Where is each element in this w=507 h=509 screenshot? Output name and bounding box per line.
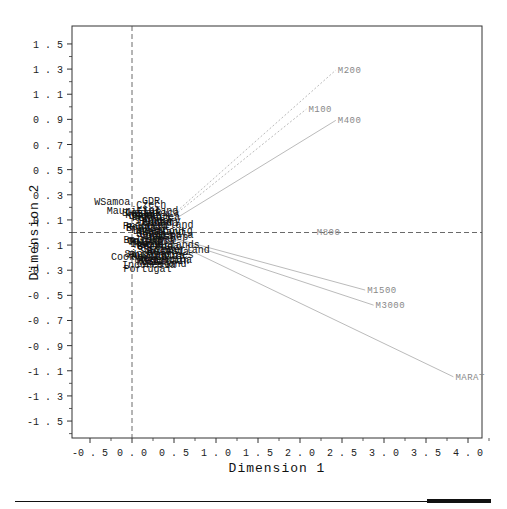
x-tick-label: 0 . 0 <box>117 448 147 459</box>
x-tick-label: 3 . 5 <box>411 448 441 459</box>
country-label: Dom.Rep <box>146 232 188 243</box>
y-tick-label: -0 . 7 <box>27 316 63 327</box>
x-tick-label: 4 . 0 <box>453 448 483 459</box>
country-cluster: SwedenTaiwanKenyaGreeceCanadaAustriaBraz… <box>94 196 210 275</box>
bottom-bar <box>427 499 491 503</box>
y-tick-label: 0 . 5 <box>33 166 63 177</box>
y-tick-label: -1 . 5 <box>27 417 63 428</box>
y-tick-label: 0 . 7 <box>33 141 63 152</box>
y-tick-label: -1 . 3 <box>27 392 63 403</box>
vector-label-m100: M100 <box>308 105 332 115</box>
y-tick-label: 1 . 5 <box>33 40 63 51</box>
x-axis-ticks: -0 . 50 . 00 . 51 . 01 . 52 . 02 . 53 . … <box>72 438 489 459</box>
x-tick-label: 2 . 5 <box>327 448 357 459</box>
y-tick-label: -0 . 5 <box>27 291 63 302</box>
y-tick-label: 1 . 3 <box>33 65 63 76</box>
vector-label-m3000: M3000 <box>376 301 406 311</box>
country-label: PNG <box>130 237 148 248</box>
x-tick-label: 0 . 5 <box>159 448 189 459</box>
vector-label-m1500: M1500 <box>367 286 397 296</box>
vector-line-m200 <box>153 70 336 232</box>
x-tick-label: 1 . 0 <box>201 448 231 459</box>
x-tick-label: 1 . 5 <box>243 448 273 459</box>
vector-label-m400: M400 <box>338 116 362 126</box>
y-tick-label: -0 . 9 <box>27 342 63 353</box>
country-label: Finland <box>136 206 178 217</box>
x-tick-label: 3 . 0 <box>369 448 399 459</box>
y-tick-label: 0 . 9 <box>33 115 63 126</box>
vector-label-marat: MARAT <box>455 373 485 383</box>
y-tick-label: 1 . 1 <box>33 90 63 101</box>
x-axis-title: Dimension 1 <box>229 461 326 476</box>
y-tick-label: -1 . 1 <box>27 367 63 378</box>
biplot-chart: M200M100M400M800M1500M3000MARAT SwedenTa… <box>0 0 507 509</box>
event-vectors: M200M100M400M800M1500M3000MARAT <box>153 66 485 383</box>
vector-label-m200: M200 <box>338 66 362 76</box>
x-tick-label: -0 . 5 <box>72 448 108 459</box>
y-axis-title: Dimension 2 <box>27 184 42 281</box>
x-tick-label: 2 . 0 <box>285 448 315 459</box>
country-label: Cook <box>111 252 135 263</box>
country-label: Portugal <box>124 264 172 275</box>
vector-label-m800: M800 <box>317 228 341 238</box>
bottom-divider <box>15 501 427 502</box>
